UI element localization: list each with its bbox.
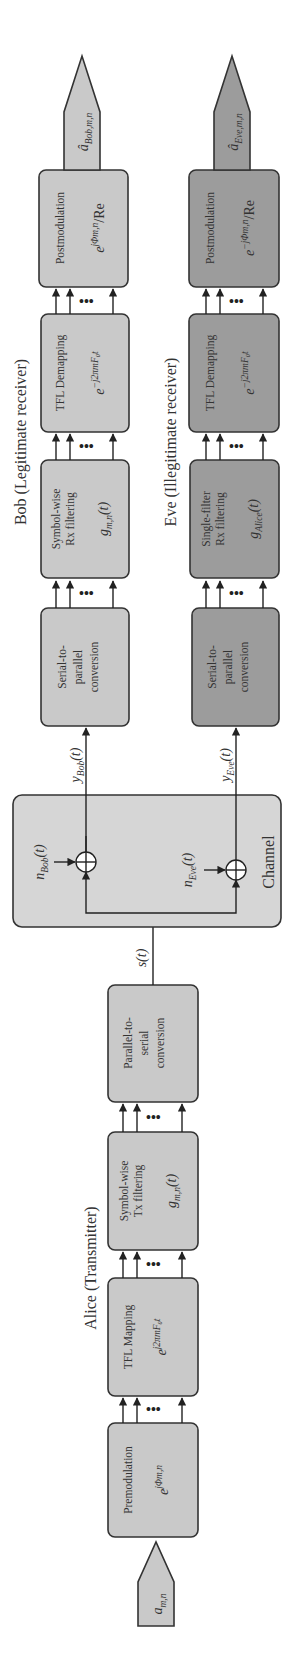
parallel-arrows: ••• bbox=[56, 434, 113, 460]
ellipsis: ••• bbox=[229, 586, 244, 601]
eve-s2p-label-3: conversion bbox=[238, 642, 250, 693]
eve-rx-label-1: Single-filter bbox=[200, 491, 213, 547]
ellipsis: ••• bbox=[146, 1110, 161, 1125]
parallel-arrows: ••• bbox=[56, 581, 113, 608]
alice-title: Alice (Transmitter) bbox=[82, 1206, 100, 1329]
bob-s2p-label-3: conversion bbox=[88, 642, 100, 693]
bob-postmodulation-block bbox=[39, 170, 128, 287]
parallel-arrows: ••• bbox=[206, 581, 263, 608]
tfl-mapping-label: TFL Mapping bbox=[122, 1305, 135, 1370]
bob-rx-label-1: Symbol-wise bbox=[50, 489, 63, 550]
bob-title: Bob (Legitimate receiver) bbox=[12, 359, 30, 525]
p2s-label-2: serial bbox=[138, 1031, 150, 1056]
parallel-arrows: ••• bbox=[123, 1398, 182, 1423]
p2s-label-3: conversion bbox=[154, 1018, 166, 1069]
eve-receiver: Eve (Illegitimate receiver) Serial-to- p… bbox=[162, 56, 279, 726]
bob-rx-label-2: Rx filtering bbox=[64, 492, 77, 546]
bob-tfl-label: TFL Demapping bbox=[54, 334, 67, 411]
ellipsis: ••• bbox=[79, 586, 94, 601]
parallel-arrows: ••• bbox=[206, 434, 263, 460]
tx-filtering-label-2: Tx filtering bbox=[132, 1164, 145, 1217]
bob-postmod-label: Postmodulation bbox=[54, 192, 66, 264]
p2s-label-1: Parallel-to- bbox=[122, 1017, 134, 1069]
y-eve-label: yEve(t) bbox=[218, 748, 236, 784]
block-diagram: am,n Premodulation ejΦm,n ••• TFL Mappin… bbox=[0, 0, 288, 1676]
ellipsis: ••• bbox=[79, 294, 94, 309]
y-bob-label: yBob(t) bbox=[68, 747, 86, 784]
parallel-arrows: ••• bbox=[123, 1252, 182, 1278]
premodulation-label: Premodulation bbox=[122, 1446, 134, 1514]
ellipsis: ••• bbox=[229, 294, 244, 309]
bob-s2p-label-2: parallel bbox=[72, 650, 85, 684]
ellipsis: ••• bbox=[79, 439, 94, 454]
parallel-arrows: ••• bbox=[206, 289, 263, 314]
eve-tfl-demapping-block bbox=[189, 314, 279, 432]
bob-s2p-label-1: Serial-to- bbox=[56, 645, 68, 689]
bob-output-arrow bbox=[64, 56, 100, 170]
parallel-arrows: ••• bbox=[56, 289, 113, 314]
eve-rx-label-2: Rx filtering bbox=[214, 492, 227, 546]
eve-postmodulation-block bbox=[189, 170, 279, 287]
eve-s2p-label-1: Serial-to- bbox=[206, 645, 218, 689]
ellipsis: ••• bbox=[146, 1257, 161, 1272]
eve-tfl-label: TFL Demapping bbox=[204, 334, 217, 411]
eve-title: Eve (Illegitimate receiver) bbox=[162, 358, 180, 527]
eve-s2p-label-2: parallel bbox=[222, 650, 235, 684]
parallel-arrows: ••• bbox=[123, 1104, 182, 1132]
bob-receiver: Bob (Legitimate receiver) Serial-to- par… bbox=[12, 56, 129, 726]
ellipsis: ••• bbox=[146, 1402, 161, 1417]
eve-output-arrow bbox=[214, 56, 250, 170]
tx-filtering-label-1: Symbol-wise bbox=[118, 1161, 131, 1222]
channel: nBob(t) nEve(t) Channel bbox=[13, 795, 281, 927]
s-t-label: s(t) bbox=[134, 948, 150, 967]
alice-transmitter: am,n Premodulation ejΦm,n ••• TFL Mappin… bbox=[82, 913, 198, 1626]
ellipsis: ••• bbox=[229, 439, 244, 454]
channel-title: Channel bbox=[260, 835, 277, 889]
eve-postmod-label: Postmodulation bbox=[204, 192, 216, 264]
bob-serial-to-parallel-block bbox=[41, 608, 129, 726]
